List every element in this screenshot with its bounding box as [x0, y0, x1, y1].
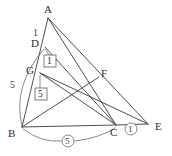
boxed-label-5: 5	[38, 90, 43, 100]
boxed-label-1: 1	[47, 57, 52, 67]
segment-a-e	[48, 18, 148, 124]
vertex-label-g: G	[26, 65, 34, 76]
vertex-label-e: E	[155, 121, 162, 132]
vertex-label-f: F	[101, 68, 107, 79]
length-label-db: 5	[10, 80, 15, 90]
vertex-label-c: C	[110, 127, 117, 138]
vertex-label-b: B	[8, 128, 15, 139]
segment-b-c	[22, 125, 116, 127]
figure-canvas	[0, 0, 172, 156]
vertex-label-a: A	[44, 4, 52, 15]
arc-b-to-c-left	[23, 129, 61, 141]
vertex-label-d: D	[31, 38, 39, 49]
segment-b-f	[22, 77, 99, 127]
arc-b-to-c-right	[75, 128, 115, 141]
circled-label-5: 5	[65, 137, 70, 146]
circled-label-1: 1	[128, 125, 133, 134]
segment-g-c	[40, 73, 116, 125]
length-label-ad: 1	[33, 28, 38, 38]
geometry-diagram: A D G F B C E 1 5 1 5 5 1	[0, 0, 172, 156]
